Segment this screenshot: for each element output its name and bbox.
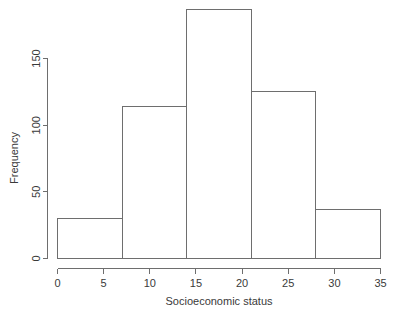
histogram-bar xyxy=(316,209,381,258)
histogram-bar xyxy=(58,219,123,259)
y-axis-tick-label: 50 xyxy=(30,186,42,198)
y-axis-tick-label: 100 xyxy=(30,116,42,134)
x-axis-tick-label: 10 xyxy=(144,277,156,289)
x-axis: 0 5 10 15 20 25 30 35 Socioeconomic stat… xyxy=(54,269,386,308)
y-axis-title: Frequency xyxy=(8,132,20,184)
x-axis-title: Socioeconomic status xyxy=(166,295,273,307)
y-axis: 0 50 100 150 Frequency xyxy=(8,49,48,261)
x-axis-tick-label: 0 xyxy=(54,277,60,289)
x-axis-tick-label: 25 xyxy=(282,277,294,289)
x-axis-tick-label: 35 xyxy=(374,277,386,289)
plot-canvas: 0 50 100 150 Frequency 0 5 10 15 20 25 3… xyxy=(0,0,398,314)
y-axis-tick-label: 0 xyxy=(30,255,42,261)
histogram-plot: 0 50 100 150 Frequency 0 5 10 15 20 25 3… xyxy=(0,0,398,314)
y-axis-tick-label: 150 xyxy=(30,49,42,67)
histogram-bar xyxy=(251,92,316,259)
x-axis-tick-label: 20 xyxy=(236,277,248,289)
bars-group xyxy=(58,9,381,258)
histogram-bar xyxy=(122,107,187,259)
x-axis-tick-label: 15 xyxy=(190,277,202,289)
x-axis-tick-label: 5 xyxy=(101,277,107,289)
histogram-bar xyxy=(187,9,252,258)
x-axis-tick-label: 30 xyxy=(328,277,340,289)
